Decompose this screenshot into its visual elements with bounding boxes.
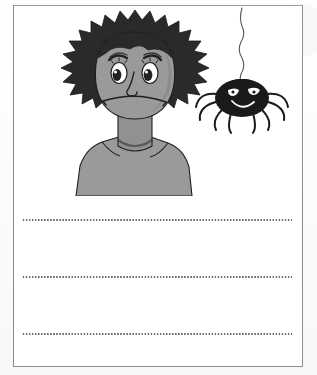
boy-pupil-left <box>113 69 122 81</box>
writing-line-1[interactable] <box>22 219 292 221</box>
spider-pupil-left <box>231 90 234 93</box>
hanging-spider-figure <box>196 8 288 133</box>
boy-pupil-right <box>144 69 153 81</box>
writing-line-3[interactable] <box>22 333 292 335</box>
writing-line-2[interactable] <box>22 276 292 278</box>
worried-boy-figure <box>61 10 209 196</box>
illustration-area <box>14 6 302 196</box>
spider-pupil-right <box>252 90 255 93</box>
worksheet-page: A worried boy looking at a spider hangin… <box>0 0 317 375</box>
boy-eye-highlight-right <box>145 71 148 74</box>
illustration-caption: A worried boy looking at a spider hangin… <box>0 0 1 1</box>
spider-thread <box>239 8 244 86</box>
boy-eye-highlight-left <box>114 71 117 74</box>
